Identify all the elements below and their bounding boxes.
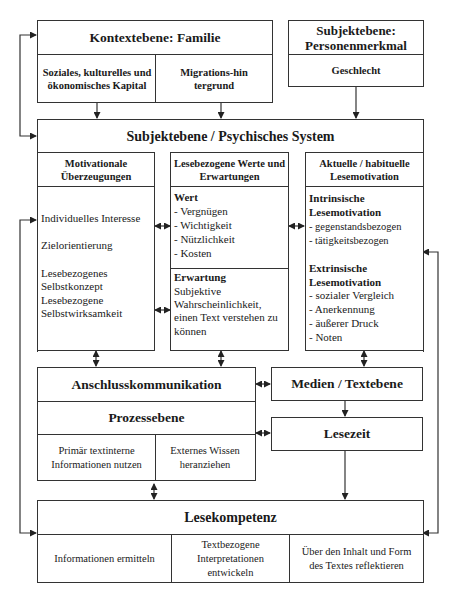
reflektieren-cell: Über den Inhalt und Form des Textes refl… xyxy=(290,535,423,582)
divider xyxy=(38,186,154,187)
migrationshintergrund-text: Migrations-hintergrund xyxy=(179,66,249,92)
geschlecht-cell: Geschlecht xyxy=(289,55,423,86)
personenmerkmal-title: Subjektebene: Personenmerkmal xyxy=(289,21,423,54)
anschluss-prozess-box: Anschlusskommunikation Prozessebene Prim… xyxy=(37,367,256,481)
prozessebene-title: Prozessebene xyxy=(38,402,255,434)
externes-wissen-cell: Externes Wissen heranziehen xyxy=(156,435,254,480)
motivationale-ueberzeugungen-box: Motivationale Überzeugungen Individuelle… xyxy=(37,152,155,351)
wert-label: Wert xyxy=(174,191,198,204)
divider xyxy=(306,186,423,187)
psychisches-system-title: Subjektebene / Psychisches System xyxy=(38,120,423,153)
individuelles-interesse: Individuelles Interesse xyxy=(41,212,155,225)
lesezeit-title: Lesezeit xyxy=(272,418,422,450)
informationen-ermitteln-cell: Informationen ermitteln xyxy=(38,535,171,582)
extrinsisch-noten: - Noten xyxy=(309,331,342,344)
interpretationen-entwickeln-cell: Textbezogene Interpretationen entwickeln xyxy=(172,535,289,582)
anschlusskommunikation-title: Anschlusskommunikation xyxy=(38,368,255,401)
erwartung-label: Erwartung xyxy=(174,271,226,284)
intrinsisch-gegenstandsbezogen: - gegenstandsbezogen xyxy=(309,220,401,233)
wert-item-nuetzlichkeit: - Nützlichkeit xyxy=(174,233,235,246)
motivationale-header: Motivationale Überzeugungen xyxy=(40,153,152,186)
lesebezogene-selbstwirksamkeit: Lesebezogene Selbstwirksamkeit xyxy=(41,294,136,320)
intrinsisch-taetigkeitsbezogen: - tätigkeitsbezogen xyxy=(309,234,389,247)
lesebezogenes-selbstkonzept: Lesebezogenes Selbstkonzept xyxy=(41,267,131,293)
extrinsisch-anerkennung: - Anerkennung xyxy=(309,303,375,316)
intrinsische-label: Intrinsische Lesemotivation xyxy=(309,191,399,219)
medien-textebene-box: Medien / Textebene xyxy=(271,367,423,401)
extrinsische-label: Extrinsische Lesemotivation xyxy=(309,261,399,289)
lesemotivation-header: Aktuelle / habituelle Lesemotivation xyxy=(308,153,421,186)
migrationshintergrund-cell: Migrations-hintergrund xyxy=(156,55,272,102)
lesekompetenz-box: Lesekompetenz Informationen ermitteln Te… xyxy=(37,500,424,583)
wert-item-vergnuegen: - Vergnügen xyxy=(174,205,228,218)
erwartung-text: Subjektive Wahrscheinlichkeit, einen Tex… xyxy=(174,285,286,338)
kontext-familie-box: Kontextebene: Familie Soziales, kulturel… xyxy=(37,20,273,103)
lesekompetenz-title: Lesekompetenz xyxy=(38,501,423,534)
zielorientierung: Zielorientierung xyxy=(41,239,155,252)
divider xyxy=(171,186,288,187)
divider xyxy=(171,268,288,269)
werte-erwartungen-header: Lesebezogene Werte und Erwartungen xyxy=(173,153,286,186)
medien-textebene-title: Medien / Textebene xyxy=(272,368,422,400)
kapital-cell: Soziales, kulturelles und ökonomisches K… xyxy=(42,55,152,102)
textinterne-informationen-cell: Primär textinterne Informationen nutzen xyxy=(40,435,153,480)
wert-item-kosten: - Kosten xyxy=(174,247,212,260)
wert-item-wichtigkeit: - Wichtigkeit xyxy=(174,219,232,232)
kontext-familie-title: Kontextebene: Familie xyxy=(38,21,272,54)
extrinsisch-sozialer-vergleich: - sozialer Vergleich xyxy=(309,289,394,302)
lesemotivation-box: Aktuelle / habituelle Lesemotivation Int… xyxy=(305,152,424,351)
personenmerkmal-box: Subjektebene: Personenmerkmal Geschlecht xyxy=(288,20,424,87)
lesezeit-box: Lesezeit xyxy=(271,417,423,451)
werte-erwartungen-box: Lesebezogene Werte und Erwartungen Wert … xyxy=(170,152,289,351)
psychisches-system-box: Subjektebene / Psychisches System xyxy=(37,119,424,153)
extrinsisch-aeusserer-druck: - äußerer Druck xyxy=(309,317,379,330)
